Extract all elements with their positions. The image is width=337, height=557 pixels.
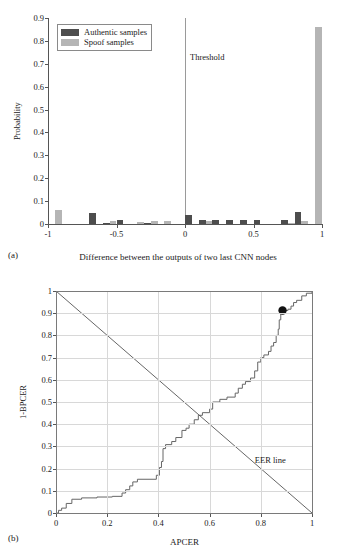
panel-a-y-axis xyxy=(48,18,49,225)
histogram-bar xyxy=(315,27,322,224)
tick-mark xyxy=(45,41,48,42)
tick-mark xyxy=(53,313,56,314)
tick-mark xyxy=(185,225,186,228)
y-tick-label: 0.9 xyxy=(22,309,52,318)
y-tick-label: 0.7 xyxy=(14,60,44,69)
histogram-bar xyxy=(240,220,247,224)
y-tick-label: 0.3 xyxy=(22,442,52,451)
histogram-bar xyxy=(185,215,192,224)
y-tick-label: 0.3 xyxy=(14,151,44,160)
legend-swatch-spoof-icon xyxy=(61,39,79,46)
histogram-bar xyxy=(151,221,158,224)
tick-mark xyxy=(53,424,56,425)
tick-mark xyxy=(53,446,56,447)
y-tick-label: 0.4 xyxy=(22,420,52,429)
tick-mark xyxy=(45,87,48,88)
y-tick-label: 0.8 xyxy=(14,37,44,46)
histogram-bar xyxy=(164,221,171,224)
histogram-bar xyxy=(110,221,117,224)
tick-mark xyxy=(45,132,48,133)
histogram-bar xyxy=(199,220,206,224)
histogram-bar xyxy=(103,223,110,224)
y-tick-label: 0.6 xyxy=(22,376,52,385)
tick-mark xyxy=(322,225,323,228)
histogram-bar xyxy=(55,210,62,224)
panel-b-caption: (b) xyxy=(8,533,19,543)
histogram-bar xyxy=(226,220,233,224)
figure-root: Probability 00.10.20.30.40.50.60.70.80.9… xyxy=(0,0,337,557)
x-tick-label: 1 xyxy=(292,519,332,528)
y-tick-label: 1 xyxy=(22,287,52,296)
eer-line-label: EER line xyxy=(255,455,286,465)
y-tick-label: 0.1 xyxy=(22,487,52,496)
legend-label-spoof: Spoof samples xyxy=(84,38,134,47)
histogram-bar xyxy=(301,221,308,224)
histogram-bar xyxy=(212,220,219,224)
tick-mark xyxy=(53,491,56,492)
threshold-label: Threshold xyxy=(190,52,224,62)
histogram-bar xyxy=(144,223,151,224)
legend-item-spoof: Spoof samples xyxy=(61,38,147,47)
tick-mark xyxy=(45,110,48,111)
panel-b-x-axis-label: APCER xyxy=(56,537,313,547)
x-tick-label: 0 xyxy=(165,230,205,239)
y-tick-label: 0.9 xyxy=(14,14,44,23)
tick-mark xyxy=(53,335,56,336)
tick-mark xyxy=(45,64,48,65)
panel-a-histogram: Probability 00.10.20.30.40.50.60.70.80.9… xyxy=(0,0,337,265)
tick-mark xyxy=(53,402,56,403)
panel-a-caption: (a) xyxy=(8,250,18,260)
x-tick-label: 0 xyxy=(36,519,76,528)
x-tick-label: 0.8 xyxy=(241,519,281,528)
y-tick-label: 0.7 xyxy=(22,354,52,363)
x-tick-label: 0.5 xyxy=(234,230,274,239)
histogram-bar xyxy=(89,213,96,224)
panel-a-x-axis-label: Difference between the outputs of two la… xyxy=(28,252,328,262)
tick-mark xyxy=(158,514,159,517)
histogram-bar xyxy=(117,220,124,224)
tick-mark xyxy=(48,225,49,228)
tick-mark xyxy=(53,380,56,381)
tick-mark xyxy=(53,291,56,292)
tick-mark xyxy=(56,514,57,517)
tick-mark xyxy=(45,155,48,156)
panel-b-roc: 1-BPCER 00.10.20.30.40.50.60.70.80.91 00… xyxy=(0,265,337,557)
y-tick-label: 0.6 xyxy=(14,83,44,92)
legend-item-authentic: Authentic samples xyxy=(61,28,147,37)
histogram-bar xyxy=(281,220,288,224)
tick-mark xyxy=(210,514,211,517)
y-tick-label: 0 xyxy=(22,509,52,518)
histogram-bar xyxy=(288,223,295,224)
histogram-bar xyxy=(206,221,213,224)
legend-swatch-authentic-icon xyxy=(61,29,79,36)
tick-mark xyxy=(45,18,48,19)
tick-mark xyxy=(45,178,48,179)
panel-b-axes-frame xyxy=(56,291,313,514)
tick-mark xyxy=(261,514,262,517)
tick-mark xyxy=(53,358,56,359)
tick-mark xyxy=(107,514,108,517)
y-tick-label: 0 xyxy=(14,220,44,229)
tick-mark xyxy=(117,225,118,228)
x-tick-label: -1 xyxy=(28,230,68,239)
x-tick-label: 1 xyxy=(302,230,337,239)
y-tick-label: 0.5 xyxy=(14,106,44,115)
x-tick-label: 0.2 xyxy=(87,519,127,528)
y-tick-label: 0.5 xyxy=(22,398,52,407)
y-tick-label: 0.2 xyxy=(22,465,52,474)
histogram-bar xyxy=(137,222,144,224)
x-tick-label: 0.6 xyxy=(190,519,230,528)
histogram-bar xyxy=(254,220,261,224)
histogram-bar xyxy=(295,212,302,224)
y-tick-label: 0.2 xyxy=(14,174,44,183)
tick-mark xyxy=(254,225,255,228)
tick-mark xyxy=(45,201,48,202)
panel-a-legend: Authentic samples Spoof samples xyxy=(57,24,152,51)
tick-mark xyxy=(312,514,313,517)
legend-label-authentic: Authentic samples xyxy=(84,28,147,37)
y-tick-label: 0.4 xyxy=(14,128,44,137)
y-tick-label: 0.1 xyxy=(14,197,44,206)
x-tick-label: 0.4 xyxy=(138,519,178,528)
y-tick-label: 0.8 xyxy=(22,331,52,340)
threshold-line xyxy=(185,18,186,224)
